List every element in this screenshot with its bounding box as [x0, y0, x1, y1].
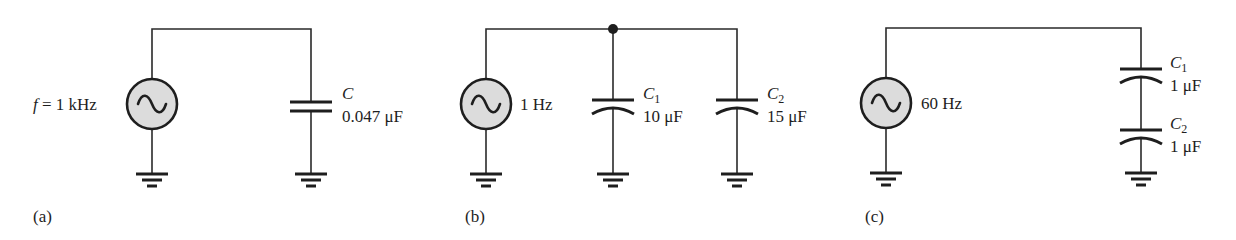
ground-icon [597, 174, 629, 186]
c1-name: C1 [1170, 53, 1187, 75]
panel-label: (b) [465, 207, 485, 226]
source-frequency-label: 1 Hz [520, 95, 553, 114]
panel-label: (c) [865, 207, 884, 226]
panel-label: (a) [33, 207, 52, 226]
ground-icon [470, 174, 502, 186]
ground-icon [136, 174, 168, 186]
junction-dot-icon [608, 24, 618, 34]
ac-source-icon [861, 78, 911, 128]
c2-value: 15 μF [767, 107, 807, 126]
ac-source-icon [461, 79, 511, 129]
panel-c: 60 Hz C1 1 μF C2 1 μF (c) [861, 28, 1201, 226]
top-wire [486, 29, 737, 100]
ground-icon [295, 174, 327, 186]
top-wire [152, 29, 311, 102]
ac-source-icon [127, 79, 177, 129]
ground-icon [1125, 173, 1157, 185]
c2-name: C2 [767, 84, 784, 106]
capacitor-circuits-figure: f = 1 kHz C 0.047 μF (a) [0, 0, 1236, 240]
top-wire [886, 28, 1141, 77]
c1-value: 10 μF [643, 107, 683, 126]
c1-name: C1 [643, 84, 660, 106]
panel-a: f = 1 kHz C 0.047 μF (a) [33, 29, 403, 226]
c2-value: 1 μF [1170, 137, 1201, 156]
panel-b: 1 Hz C1 10 μF C2 15 μF (b [461, 24, 807, 226]
capacitor-name: C [342, 84, 354, 103]
source-frequency-label: f = 1 kHz [33, 95, 97, 114]
source-frequency-label: 60 Hz [921, 94, 963, 113]
ground-icon [870, 173, 902, 185]
c2-name: C2 [1170, 114, 1187, 136]
capacitor-value: 0.047 μF [342, 107, 403, 126]
ground-icon [721, 174, 753, 186]
c1-value: 1 μF [1170, 76, 1201, 95]
capacitor-icon [290, 102, 332, 111]
